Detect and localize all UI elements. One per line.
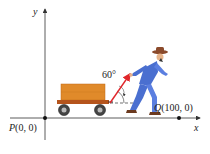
- x-axis-label: x: [193, 122, 199, 133]
- point-q: [177, 116, 181, 120]
- point-q-label: Q(100, 0): [154, 102, 193, 114]
- point-p-label: P(0, 0): [8, 122, 37, 134]
- angle-label: 60°: [102, 69, 116, 80]
- cart-base: [57, 100, 109, 104]
- cart: [57, 84, 113, 116]
- angle-arc: [117, 91, 124, 103]
- y-axis-label: y: [32, 6, 38, 17]
- point-p: [43, 116, 47, 120]
- work-diagram: y x 60°: [0, 0, 210, 154]
